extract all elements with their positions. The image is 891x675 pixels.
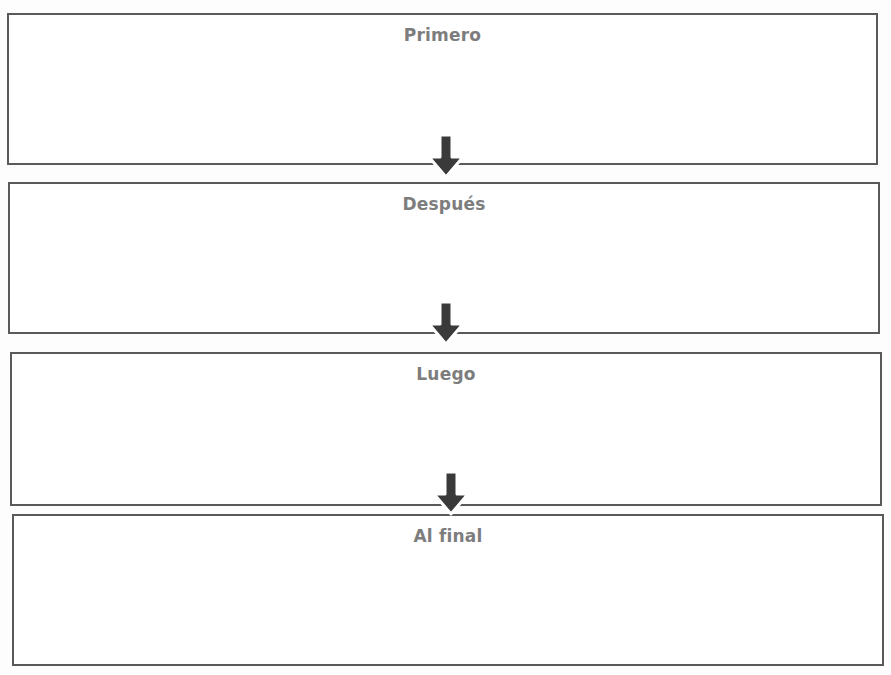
down-arrow-icon	[426, 300, 466, 346]
step-title: Al final	[14, 526, 882, 546]
step-title: Luego	[12, 364, 880, 384]
down-arrow-icon	[426, 133, 466, 179]
sequence-organizer-page: Primero Después Luego Al final	[0, 0, 891, 675]
step-title: Primero	[9, 25, 876, 45]
step-box-al-final[interactable]: Al final	[12, 514, 884, 666]
down-arrow-icon	[431, 470, 471, 516]
step-title: Después	[10, 194, 878, 214]
